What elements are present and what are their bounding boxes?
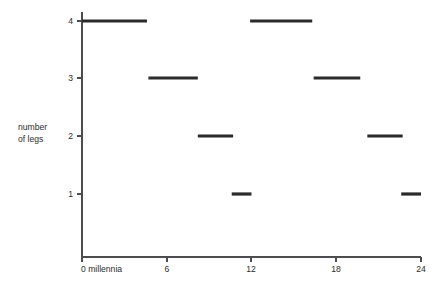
y-axis-title-line-1: number xyxy=(18,122,47,132)
chart-svg: 1234 0 millennia6121824 number of legs xyxy=(0,0,437,285)
plot-background xyxy=(0,0,437,285)
chart-figure: 1234 0 millennia6121824 number of legs xyxy=(0,0,437,285)
x-tick-label-6: 6 xyxy=(165,264,170,274)
y-tick-label-4: 4 xyxy=(68,16,73,26)
y-tick-label-1: 1 xyxy=(68,189,73,199)
y-axis-title-line-2: of legs xyxy=(18,134,43,144)
y-tick-label-3: 3 xyxy=(68,73,73,83)
y-tick-label-2: 2 xyxy=(68,131,73,141)
x-tick-label-0: 0 millennia xyxy=(81,264,122,274)
x-tick-label-24: 24 xyxy=(416,264,426,274)
x-tick-label-12: 12 xyxy=(246,264,256,274)
x-tick-label-18: 18 xyxy=(331,264,341,274)
